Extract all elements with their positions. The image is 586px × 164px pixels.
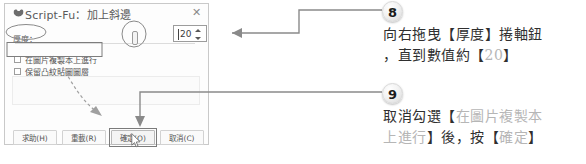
thickness-spinbox[interactable]: 20: [173, 25, 207, 42]
dialog-title: Script-Fu：加上斜邊: [25, 6, 131, 22]
step-badge-8: 8: [382, 1, 403, 22]
spin-up-arrow-icon[interactable]: [195, 29, 201, 32]
step-8-value: 20: [485, 47, 504, 63]
text-caret: [178, 29, 179, 40]
step-badge-9: 9: [382, 83, 403, 104]
step-9-text: 取消勾選【在圖片複製本 上進行】後，按【確定】: [383, 106, 543, 148]
dialog-button-row: 求助(H) 重載(R) 確定(O) 取消(C): [11, 130, 203, 145]
mouse-cursor-icon: [131, 133, 141, 148]
help-button[interactable]: 求助(H): [13, 130, 57, 145]
step-8-line-2-part-b: 】: [503, 47, 518, 63]
thickness-slider-thumb[interactable]: [132, 31, 138, 45]
checkbox-row-keep-bumpmap[interactable]: 保留凸紋貼圖圖層: [14, 61, 89, 72]
dialog-inner-panel: [12, 76, 200, 105]
step-9-line-1: 取消勾選【在圖片複製本: [383, 106, 543, 127]
step-9-line-2-part-a: 】後，按【: [427, 129, 500, 145]
spinner-arrows[interactable]: [195, 28, 202, 41]
thickness-slider-track[interactable]: [15, 43, 195, 44]
cancel-button[interactable]: 取消(C): [160, 130, 204, 145]
step8-arrowhead: [232, 28, 242, 38]
gimp-wilber-icon: [13, 8, 23, 17]
checkbox-row-copy[interactable]: 在圖片複製本上進行: [14, 49, 97, 60]
step-8-text: 向右拖曳【厚度】捲軸鈕 ，直到數值約【20】: [383, 24, 543, 66]
checkbox-keep-bumpmap[interactable]: [14, 68, 21, 75]
step-8-line-1: 向右拖曳【厚度】捲軸鈕: [383, 24, 543, 45]
dialog-titlebar[interactable]: Script-Fu：加上斜邊 ✕: [5, 4, 208, 22]
step-9-option-name-part-1: 在圖片複製本: [456, 108, 543, 124]
step-9-option-name-part-2: 上進行: [383, 129, 427, 145]
close-icon[interactable]: ✕: [190, 6, 203, 19]
thickness-value: 20: [180, 29, 191, 40]
screenshot-root: Script-Fu：加上斜邊 ✕ 厚度： 在圖片複製本上進行 保留凸紋貼圖圖層 …: [0, 0, 586, 164]
step-9-ok-reference: 確定: [499, 129, 528, 145]
step-8-line-2-part-a: ，直到數值約【: [383, 47, 485, 63]
step-9-line-2-part-b: 】: [528, 129, 543, 145]
step8-leader-line: [232, 10, 382, 33]
step-8-line-2: ，直到數值約【20】: [383, 45, 543, 66]
reload-button[interactable]: 重載(R): [62, 130, 106, 145]
step-9-line-2: 上進行】後，按【確定】: [383, 127, 543, 148]
step-9-line-1-part-a: 取消勾選【: [383, 108, 456, 124]
spin-down-arrow-icon[interactable]: [195, 37, 201, 40]
